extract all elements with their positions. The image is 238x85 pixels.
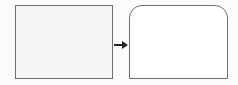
square-corner-rectangle: [15, 5, 113, 79]
rounded-top-rectangle: [129, 5, 228, 79]
arrow-right-icon: [113, 40, 129, 50]
